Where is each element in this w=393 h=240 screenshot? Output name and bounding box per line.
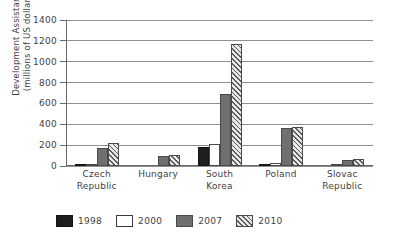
bar-1998[interactable] <box>198 147 209 166</box>
bar-2010[interactable] <box>292 127 303 166</box>
chart-legend: 1998200020072010 <box>56 213 346 229</box>
bar-2007[interactable] <box>158 156 169 166</box>
bar-1998[interactable] <box>259 164 270 166</box>
y-tick-label-600: 600 <box>39 98 57 108</box>
y-tick-label-1000: 1000 <box>33 57 57 67</box>
legend-swatch-1998 <box>56 215 73 227</box>
bar-2000[interactable] <box>331 164 342 166</box>
y-tick-label-400: 400 <box>39 119 57 129</box>
legend-swatch-2007 <box>176 215 193 227</box>
x-axis-label-line1: Hungary <box>138 169 178 179</box>
bar-2010[interactable] <box>231 44 242 166</box>
legend-label-1998: 1998 <box>78 216 102 226</box>
bar-chart: Development Assistance (millions of US d… <box>0 0 393 240</box>
legend-label-2010: 2010 <box>258 216 282 226</box>
bar-group <box>189 20 250 166</box>
bar-2007[interactable] <box>281 128 292 166</box>
x-axis-label-line1: Slovac <box>327 169 358 179</box>
legend-label-2007: 2007 <box>198 216 222 226</box>
x-axis-label-line2: Republic <box>66 181 127 193</box>
x-axis-label: Hungary <box>127 169 188 199</box>
bar-2010[interactable] <box>353 159 364 166</box>
x-axis-label-line1: Poland <box>265 169 296 179</box>
y-tick-label-200: 200 <box>39 140 57 150</box>
bar-2000[interactable] <box>209 144 220 166</box>
legend-item-2000[interactable]: 2000 <box>116 215 162 227</box>
legend-item-2007[interactable]: 2007 <box>176 215 222 227</box>
bar-group <box>250 20 311 166</box>
legend-label-2000: 2000 <box>138 216 162 226</box>
bar-groups <box>66 20 373 166</box>
legend-swatch-2010 <box>236 215 253 227</box>
legend-item-2010[interactable]: 2010 <box>236 215 282 227</box>
x-axis-label-line2: Republic <box>312 181 373 193</box>
x-axis-labels: CzechRepublicHungarySouthKoreaPolandSlov… <box>66 169 373 199</box>
x-axis-label: SouthKorea <box>189 169 250 199</box>
bar-group <box>312 20 373 166</box>
bar-2010[interactable] <box>169 155 180 166</box>
y-tick-label-0: 0 <box>51 161 57 171</box>
bar-group <box>66 20 127 166</box>
bar-1998[interactable] <box>75 164 86 166</box>
legend-item-1998[interactable]: 1998 <box>56 215 102 227</box>
bar-2007[interactable] <box>342 160 353 166</box>
bar-2000[interactable] <box>86 164 97 166</box>
x-axis-label: SlovacRepublic <box>312 169 373 199</box>
y-axis-ticks: 0200400600800100012001400 <box>0 20 66 166</box>
y-tick-label-800: 800 <box>39 78 57 88</box>
bar-2000[interactable] <box>270 163 281 166</box>
plot-area <box>66 20 373 166</box>
y-tick-label-1200: 1200 <box>33 36 57 46</box>
legend-swatch-2000 <box>116 215 133 227</box>
x-axis-label-line2: Korea <box>189 181 250 193</box>
x-axis-label: Poland <box>250 169 311 199</box>
bar-2007[interactable] <box>97 148 108 166</box>
x-axis-label: CzechRepublic <box>66 169 127 199</box>
x-axis-label-line1: South <box>206 169 233 179</box>
bar-group <box>127 20 188 166</box>
x-axis-label-line1: Czech <box>83 169 111 179</box>
bar-2010[interactable] <box>108 143 119 166</box>
bar-2007[interactable] <box>220 94 231 166</box>
y-tick-label-1400: 1400 <box>33 15 57 25</box>
